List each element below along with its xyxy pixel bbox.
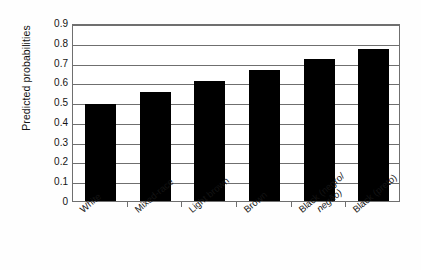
y-axis-tick-label: 0.1 [26,177,68,187]
gridline [73,104,399,105]
x-axis-tick [236,202,237,207]
gridline [73,25,399,26]
y-axis-tick-label: 0.3 [26,138,68,148]
y-axis-title: Predicted probabilities [20,0,32,158]
bar [85,104,116,201]
y-axis-tick-label: 0.6 [26,78,68,88]
y-axis-tick-label: 0.7 [26,59,68,69]
x-axis-tick [291,202,292,207]
y-axis-tick-label: 0.5 [26,98,68,108]
plot-area [72,24,400,202]
y-axis-tick-label: 0.9 [26,19,68,29]
y-axis-tick-label: 0 [26,197,68,207]
bar-chart: Predicted probabilities 00.10.20.30.40.5… [0,0,421,270]
gridline [73,124,399,125]
bar [249,70,280,201]
y-axis-tick-label: 0.2 [26,157,68,167]
gridline [73,45,399,46]
y-axis-tick-label: 0.8 [26,39,68,49]
x-axis-tick [127,202,128,207]
x-axis-tick [345,202,346,207]
gridline [73,144,399,145]
gridline [73,84,399,85]
x-axis-tick [181,202,182,207]
gridline [73,163,399,164]
gridline [73,65,399,66]
y-axis-tick-label: 0.4 [26,118,68,128]
